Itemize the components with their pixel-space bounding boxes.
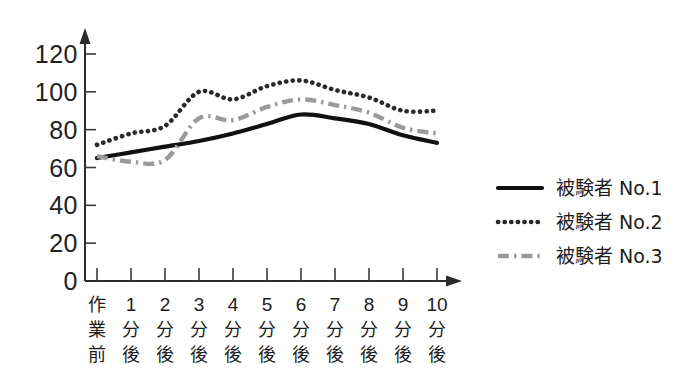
x-label-line-1: 10: [426, 294, 447, 315]
x-axis-category-label: 7分後: [326, 294, 344, 365]
legend-label: 被験者 No.2: [556, 211, 663, 233]
x-label-line-1: 6: [296, 294, 307, 315]
x-axis-category-label: 5分後: [258, 294, 276, 365]
x-label-line-1: 4: [228, 294, 239, 315]
y-axis-tick-marks: [85, 54, 96, 243]
y-axis-tick-label: 20: [49, 229, 78, 257]
x-label-line-1: 2: [160, 294, 171, 315]
x-label-line-1: 作: [88, 294, 106, 315]
y-axis-tick-label: 100: [35, 78, 78, 106]
x-label-line-2: 分: [326, 319, 344, 340]
x-label-line-1: 7: [330, 294, 341, 315]
legend-label: 被験者 No.3: [556, 245, 663, 267]
x-label-line-1: 3: [194, 294, 205, 315]
x-axis-category-label: 8分後: [360, 294, 378, 365]
x-label-line-3: 後: [258, 344, 276, 365]
legend-item-3[interactable]: 被験者 No.3: [498, 245, 663, 267]
x-label-line-3: 後: [394, 344, 412, 365]
x-label-line-3: 後: [428, 344, 446, 365]
legend-item-1[interactable]: 被験者 No.1: [498, 177, 663, 199]
x-label-line-2: 業: [88, 319, 106, 340]
y-axis-group: 020406080100120: [35, 28, 96, 295]
x-label-line-2: 分: [394, 319, 412, 340]
x-label-line-1: 8: [364, 294, 375, 315]
x-axis-category-label: 10分後: [426, 294, 447, 365]
y-axis-tick-label: 60: [49, 154, 78, 182]
line-chart-figure: 020406080100120 作業前1分後2分後3分後4分後5分後6分後7分後…: [0, 0, 697, 384]
x-label-line-3: 後: [156, 344, 174, 365]
y-axis-tick-label: 80: [49, 116, 78, 144]
y-axis-tick-label: 120: [35, 40, 78, 68]
chart-svg: 020406080100120 作業前1分後2分後3分後4分後5分後6分後7分後…: [0, 0, 697, 384]
x-label-line-3: 後: [326, 344, 344, 365]
x-label-line-1: 1: [126, 294, 137, 315]
x-label-line-1: 9: [398, 294, 409, 315]
x-axis-arrowhead: [446, 276, 462, 287]
series-plot-area: [97, 80, 437, 164]
x-label-line-2: 分: [190, 319, 208, 340]
x-label-line-2: 分: [122, 319, 140, 340]
x-label-line-2: 分: [224, 319, 242, 340]
x-label-line-2: 分: [360, 319, 378, 340]
x-label-line-1: 5: [262, 294, 273, 315]
x-label-line-2: 分: [258, 319, 276, 340]
x-label-line-3: 後: [224, 344, 242, 365]
x-axis-tick-marks: [97, 268, 437, 281]
x-label-line-3: 後: [122, 344, 140, 365]
x-label-line-2: 分: [292, 319, 310, 340]
x-axis-category-label: 9分後: [394, 294, 412, 365]
series-line-1: [97, 114, 437, 158]
x-axis-category-label: 3分後: [190, 294, 208, 365]
x-axis-tick-labels: 作業前1分後2分後3分後4分後5分後6分後7分後8分後9分後10分後: [88, 294, 448, 365]
y-axis-tick-label: 0: [64, 267, 78, 295]
x-label-line-3: 後: [360, 344, 378, 365]
legend-label: 被験者 No.1: [556, 177, 663, 199]
x-axis-category-label: 4分後: [224, 294, 242, 365]
x-axis-group: 作業前1分後2分後3分後4分後5分後6分後7分後8分後9分後10分後: [85, 268, 462, 365]
x-label-line-3: 後: [190, 344, 208, 365]
x-axis-category-label: 作業前: [88, 294, 106, 365]
x-axis-category-label: 1分後: [122, 294, 140, 365]
series-line-2: [97, 80, 437, 144]
x-label-line-3: 前: [88, 344, 106, 365]
x-label-line-3: 後: [292, 344, 310, 365]
y-axis-tick-label: 40: [49, 191, 78, 219]
x-axis-category-label: 6分後: [292, 294, 310, 365]
x-axis-category-label: 2分後: [156, 294, 174, 365]
chart-legend: 被験者 No.1被験者 No.2被験者 No.3: [498, 177, 663, 267]
legend-item-2[interactable]: 被験者 No.2: [498, 211, 663, 233]
x-label-line-2: 分: [428, 319, 446, 340]
y-axis-arrowhead: [80, 28, 91, 44]
y-axis-tick-labels: 020406080100120: [35, 40, 78, 295]
x-label-line-2: 分: [156, 319, 174, 340]
